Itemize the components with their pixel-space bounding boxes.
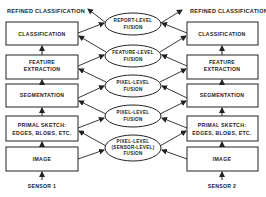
- fusion-label: (SENSOR-LEVEL): [112, 145, 155, 150]
- fusion-label: PIXEL-LEVEL: [117, 80, 150, 85]
- arrow: [162, 86, 187, 98]
- fusion-label: FUSION: [123, 87, 143, 92]
- arrow: [78, 118, 104, 128]
- right-primal-label: PRIMAL SKETCH:: [198, 122, 247, 128]
- right-edges-label: EDGES, BLOBS, ETC.: [192, 130, 252, 136]
- fusion-label: PIXEL-LEVEL: [117, 139, 150, 144]
- arrow: [78, 150, 104, 159]
- arrow: [79, 131, 106, 146]
- left-segmentation-label: SEGMENTATION: [20, 92, 65, 98]
- arrow: [160, 101, 186, 114]
- fusion-diagram: REFINED CLASSIFICATION REFINED CLASSIFIC…: [0, 0, 266, 197]
- arrow: [79, 69, 106, 82]
- arrow: [162, 118, 187, 128]
- left-image-label: IMAGE: [33, 156, 52, 162]
- pixel-level-fusion-node-2: [105, 105, 161, 127]
- arrow: [78, 23, 104, 33]
- arrow: [78, 86, 104, 98]
- arrow: [160, 36, 186, 52]
- right-feature-label: FEATURE: [209, 59, 235, 65]
- right-classification-label: CLASSIFICATION: [198, 31, 245, 37]
- fusion-label: FUSION: [123, 151, 143, 156]
- feature-level-fusion-node: [105, 45, 161, 67]
- arrow: [162, 55, 187, 66]
- left-feature-label: FEATURE: [29, 59, 55, 65]
- fusion-label: PIXEL-LEVEL: [117, 110, 150, 115]
- arrow: [162, 23, 187, 33]
- fusion-label: REPORT-LEVEL: [114, 18, 153, 23]
- arrow: [79, 36, 106, 52]
- fusion-label: FUSION: [123, 117, 143, 122]
- left-output-label: REFINED CLASSIFICATION: [7, 8, 85, 14]
- right-primal-sketch-box: [187, 116, 258, 141]
- left-classification-label: CLASSIFICATION: [18, 31, 65, 37]
- fusion-label: FEATURE-LEVEL: [112, 50, 154, 55]
- right-output-label: REFINED CLASSIFICATION: [190, 8, 266, 14]
- left-primal-sketch-box: [6, 116, 78, 141]
- arrow: [79, 101, 106, 114]
- right-extraction-label: EXTRACTION: [204, 66, 241, 72]
- sensor-1-label: SENSOR 1: [28, 183, 57, 189]
- right-segmentation-label: SEGMENTATION: [200, 92, 245, 98]
- pixel-level-fusion-node-1: [105, 75, 161, 97]
- sensor-2-label: SENSOR 2: [208, 183, 237, 189]
- arrow: [160, 69, 186, 82]
- arrow: [78, 55, 104, 66]
- fusion-label: FUSION: [123, 57, 143, 62]
- right-image-label: IMAGE: [213, 156, 232, 162]
- arrow: [160, 131, 186, 146]
- left-extraction-label: EXTRACTION: [24, 66, 61, 72]
- left-edges-label: EDGES, BLOBS, ETC.: [12, 130, 72, 136]
- report-level-fusion-node: [105, 13, 161, 35]
- fusion-label: FUSION: [123, 25, 143, 30]
- arrow: [162, 150, 187, 159]
- left-primal-label: PRIMAL SKETCH:: [18, 122, 67, 128]
